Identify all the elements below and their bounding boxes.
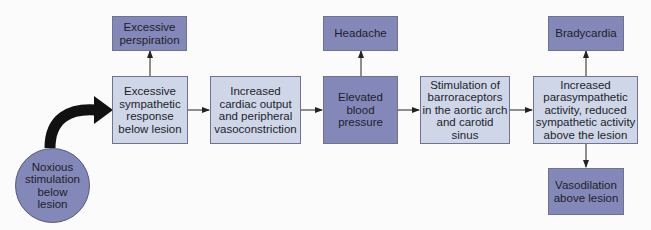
- vasodilation-box: Vasodilation above lesion: [548, 168, 624, 215]
- headache-label: Headache: [334, 27, 386, 40]
- excessive-perspiration-box: Excessive perspiration: [112, 16, 187, 51]
- vasodilation-label: Vasodilation above lesion: [553, 179, 619, 204]
- elevated-blood-pressure-label: Elevated blood pressure: [336, 91, 386, 129]
- baroreceptor-stimulation-label: Stimulation of barroraceptors in the aor…: [422, 79, 508, 142]
- noxious-stimulation-node: Noxious stimulation below lesion: [15, 148, 90, 223]
- bradycardia-label: Bradycardia: [555, 27, 616, 40]
- baroreceptor-stimulation-box: Stimulation of barroraceptors in the aor…: [420, 76, 510, 144]
- curved-arrow: [50, 110, 96, 148]
- parasympathetic-activity-box: Increased parasympathetic activity, redu…: [533, 76, 638, 144]
- headache-box: Headache: [323, 16, 398, 51]
- excessive-sympathetic-label: Excessive sympathetic response below les…: [115, 85, 185, 135]
- increased-cardiac-output-box: Increased cardiac output and peripheral …: [210, 76, 301, 144]
- bradycardia-box: Bradycardia: [548, 16, 624, 51]
- increased-cardiac-output-label: Increased cardiac output and peripheral …: [212, 85, 300, 135]
- elevated-blood-pressure-box: Elevated blood pressure: [323, 76, 398, 144]
- noxious-stimulation-label: Noxious stimulation below lesion: [22, 161, 84, 211]
- parasympathetic-activity-label: Increased parasympathetic activity, redu…: [535, 79, 637, 142]
- excessive-sympathetic-box: Excessive sympathetic response below les…: [112, 76, 188, 144]
- curved-arrowhead: [94, 96, 113, 124]
- excessive-perspiration-label: Excessive perspiration: [117, 21, 183, 46]
